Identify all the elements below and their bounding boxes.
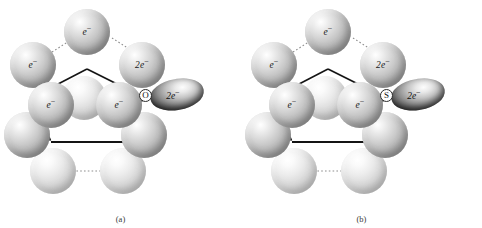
sphere-upper-left-label: e−	[10, 60, 56, 70]
lone-pair-lobe-label: 2e−	[166, 90, 179, 100]
sphere-upper-right: 2e−	[360, 42, 406, 88]
figure-two-panel-surface-cluster: e− e− 2e− 2e−	[0, 0, 482, 228]
panel-b-caption: (b)	[241, 214, 482, 224]
sphere-top-label: e−	[305, 27, 351, 37]
sphere-inner-left: e−	[269, 82, 315, 128]
sphere-inner-right-label: e−	[337, 100, 383, 110]
sphere-upper-right: 2e−	[119, 42, 165, 88]
panel-a-caption: (a)	[0, 214, 241, 224]
sphere-top: e−	[305, 9, 351, 55]
panel-b-stage: e− e− 2e− 2e− e−	[241, 0, 482, 205]
sphere-inner-left-label: e−	[269, 100, 315, 110]
panel-b: e− e− 2e− 2e− e−	[241, 0, 482, 228]
sphere-top-label: e−	[64, 27, 110, 37]
panel-a-stage: e− e− 2e− 2e−	[0, 0, 241, 205]
adsorbate-atom-symbol: S	[380, 89, 393, 102]
sphere-upper-right-label: 2e−	[360, 60, 406, 70]
panel-a: e− e− 2e− 2e−	[0, 0, 241, 228]
sphere-inner-right: e−	[337, 82, 383, 128]
sphere-inner-right-label: e−	[96, 100, 142, 110]
sphere-inner-right: e−	[96, 82, 142, 128]
sphere-inner-left: e−	[28, 82, 74, 128]
sphere-inner-left-label: e−	[28, 100, 74, 110]
sphere-top: e−	[64, 9, 110, 55]
sphere-upper-right-label: 2e−	[119, 60, 165, 70]
sphere-upper-left-label: e−	[251, 60, 297, 70]
lone-pair-lobe-label: 2e−	[407, 90, 420, 100]
adsorbate-atom-symbol: O	[139, 89, 152, 102]
